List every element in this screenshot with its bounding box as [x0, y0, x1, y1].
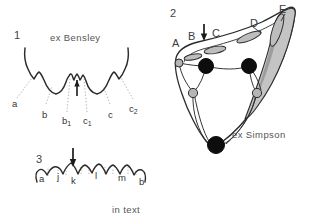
panel-1-label-c1-subscript: 1: [88, 120, 92, 127]
panel-1-label-c: c: [108, 110, 113, 120]
panel-2-down-arrow-icon: [201, 24, 207, 41]
panel-2-label-E: E: [279, 4, 286, 15]
panel-number-1: 1: [14, 30, 20, 41]
panel-1-label-b1-subscript: 1: [67, 120, 71, 127]
panel-3-label-l: l: [95, 171, 97, 181]
panel-1-label-c1: c1: [83, 116, 92, 126]
panel-2-node-black-metacone: [242, 59, 257, 74]
panel-1-down-arrow-icon: [74, 80, 79, 96]
panel-1-leader-lines: [17, 78, 133, 112]
figure-root: 1 2 3 ex Bensley ex Simpson in text a b …: [0, 0, 309, 224]
panel-3-down-arrow-icon: [70, 148, 76, 167]
panel-3-outline: [36, 163, 145, 182]
panel-2-label-D: D: [250, 18, 258, 29]
caption-ex-bensley: ex Bensley: [50, 33, 100, 43]
panel-number-3: 3: [36, 154, 42, 165]
panel-3-label-k: k: [71, 176, 76, 186]
panel-2-label-A: A: [172, 38, 179, 49]
panel-3-label-m: m: [118, 173, 126, 183]
panel-3-label-b: b: [139, 177, 144, 187]
panel-1-label-b: b: [42, 110, 47, 120]
caption-in-text: in text: [112, 205, 140, 215]
panel-2-node-gray-left: [188, 88, 197, 97]
panel-3-label-a: a: [39, 174, 44, 184]
caption-ex-simpson: ex Simpson: [232, 130, 286, 140]
panel-2-node-black-hypocone: [208, 137, 225, 154]
panel-2-node-gray-A: [175, 59, 183, 67]
panel-2-node-black-protocone: [199, 59, 214, 74]
panel-3-label-j: j: [57, 172, 59, 182]
panel-3-crest-profile: [36, 148, 145, 182]
panel-1-label-a: a: [12, 99, 17, 109]
panel-1-label-c2: c2: [129, 104, 138, 114]
panel-2-label-B: B: [188, 31, 195, 42]
panel-2-node-gray-right: [252, 88, 261, 97]
panel-1-label-c2-subscript: 2: [134, 108, 138, 115]
panel-1-crown-profile: [17, 48, 133, 112]
panel-number-2: 2: [170, 8, 176, 19]
panel-1-label-b1: b1: [62, 116, 71, 126]
panel-2-label-C: C: [212, 28, 220, 39]
